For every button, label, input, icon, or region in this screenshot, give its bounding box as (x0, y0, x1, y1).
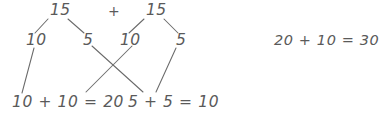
connector-right-ten-to-tens-equation (86, 46, 132, 92)
connector-right-five-to-ones-equation (156, 48, 176, 92)
equation-tens: 10 + 10 = 20 (12, 95, 124, 111)
bond-right-total: 15 (146, 3, 166, 19)
bond-left-total: 15 (50, 3, 70, 19)
bond-right-part-five: 5 (176, 33, 186, 49)
equation-final-total: 20 + 10 = 30 (274, 33, 379, 48)
equation-ones: 5 + 5 = 10 (128, 95, 219, 111)
bond-right-part-ten: 10 (120, 33, 140, 49)
connector-left-five-to-ones-equation (92, 46, 143, 92)
connector-left-ten-to-tens-equation (22, 48, 34, 93)
bond-left-part-five: 5 (83, 33, 93, 49)
operator-plus: + (108, 4, 120, 18)
bond-left-part-ten: 10 (26, 33, 46, 49)
worksheet-canvas: 15 + 15 10 5 10 5 10 + 10 = 20 5 + 5 = 1… (0, 0, 379, 119)
bond-left-branch-to-five (68, 19, 84, 33)
